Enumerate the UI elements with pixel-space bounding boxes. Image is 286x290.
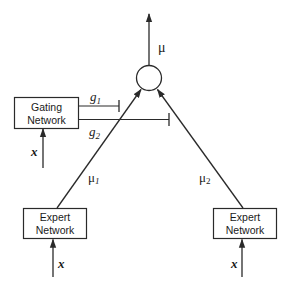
gate-g2-label: g2 <box>89 124 101 141</box>
expert-network-2-label-line1: Expert <box>230 211 260 223</box>
expert-2-output-label: μ2 <box>199 170 210 186</box>
gating-network: Gating Network <box>15 98 79 129</box>
expert-2-output-sub: 2 <box>206 176 211 186</box>
gate-g1-sub: 1 <box>97 96 102 106</box>
output-label-mu: μ <box>158 40 166 55</box>
expert-network-1-label-line1: Expert <box>40 211 70 223</box>
expert-network-2-label-line2: Network <box>226 224 265 236</box>
expert-1-input-x-label: x <box>57 256 65 271</box>
gating-input-x-label: x <box>30 144 38 159</box>
expert-2-input-x-label: x <box>230 256 238 271</box>
expert-2-output-base: μ <box>199 170 206 185</box>
gating-network-label-line2: Network <box>27 114 66 126</box>
gating-network-label-line1: Gating <box>31 101 62 113</box>
expert-1-output-label: μ1 <box>88 170 99 186</box>
expert-network-1: Expert Network <box>24 209 87 239</box>
gate-g2-sub: 2 <box>96 131 101 141</box>
expert-network-2: Expert Network <box>214 209 277 239</box>
mixture-of-experts-diagram: μ Gating Network x g1 g2 μ1 μ2 Expert Ne… <box>0 0 286 290</box>
expert-1-output-base: μ <box>88 170 95 185</box>
combiner-node <box>137 66 162 91</box>
expert-2-output-arrow <box>158 90 244 209</box>
expert-1-output-sub: 1 <box>95 176 100 186</box>
gate-g1-label: g1 <box>90 89 101 106</box>
expert-network-1-label-line2: Network <box>36 224 75 236</box>
